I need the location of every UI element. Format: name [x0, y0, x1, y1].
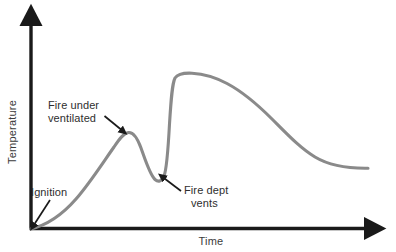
- annotation-fire-under-ventilated-arrow: [105, 116, 122, 130]
- annotation-fire-dept-vents-line1: Fire dept: [184, 184, 228, 196]
- annotation-fire-under-ventilated: Fire under ventilated: [48, 99, 121, 130]
- annotation-fire-dept-vents-line2: vents: [191, 197, 218, 209]
- annotation-ignition-label: Ignition: [31, 186, 67, 198]
- annotation-ignition: Ignition: [31, 186, 67, 224]
- chart-canvas: Temperature Time Fire under ventilated F…: [0, 0, 396, 252]
- x-axis-label: Time: [199, 235, 224, 247]
- annotation-fire-dept-vents-arrow: [165, 179, 182, 192]
- annotation-fire-under-ventilated-line2: ventilated: [48, 112, 96, 124]
- y-axis-label: Temperature: [6, 100, 18, 164]
- fire-development-curve-chart: Temperature Time Fire under ventilated F…: [0, 0, 396, 252]
- annotation-fire-dept-vents: Fire dept vents: [165, 179, 229, 210]
- annotation-ignition-arrow: [35, 200, 51, 224]
- annotation-fire-under-ventilated-line1: Fire under: [48, 99, 99, 111]
